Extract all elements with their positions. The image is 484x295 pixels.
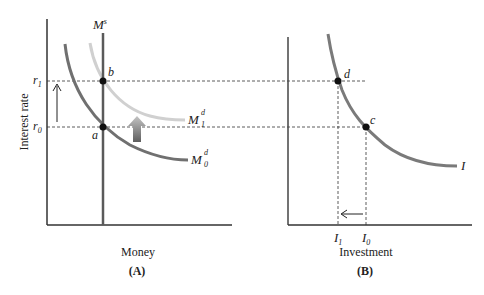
point-a-label: a: [92, 128, 98, 142]
point-c-dot: [363, 124, 370, 131]
svg-text:1: 1: [201, 120, 205, 129]
point-a-dot: [100, 124, 107, 131]
point-b-label: b: [108, 65, 114, 79]
panel-a: Ms b a r1 r0 M d 1 M d 0 Interest rate M…: [17, 17, 370, 278]
x-axis-label-investment: Investment: [339, 245, 393, 259]
demand-shift-arrow-icon: [128, 116, 146, 142]
point-c-label: c: [370, 113, 376, 127]
money-market-investment-diagram: Ms b a r1 r0 M d 1 M d 0 Interest rate M…: [0, 0, 484, 295]
panel-a-label: (A): [129, 264, 146, 278]
svg-text:M: M: [187, 112, 200, 127]
r0-label: r0: [33, 119, 42, 135]
demand1-label: M d 1: [187, 108, 206, 129]
point-d-dot: [335, 78, 342, 85]
svg-text:M: M: [190, 152, 203, 167]
x-axis-label-money: Money: [121, 245, 155, 259]
demand0-label: M d 0: [190, 148, 209, 169]
svg-text:0: 0: [204, 160, 208, 169]
svg-text:d: d: [204, 148, 209, 157]
money-demand-0-curve: [65, 44, 188, 160]
y-axis-label: Interest rate: [17, 94, 31, 151]
r1-label: r1: [33, 73, 42, 89]
point-d-label: d: [344, 67, 351, 81]
panel-b: d c I I1 I0 Investment (B): [288, 34, 472, 278]
investment-curve: [328, 34, 457, 166]
investment-curve-label: I: [460, 158, 466, 173]
panel-b-label: (B): [357, 264, 373, 278]
supply-label: Ms: [92, 17, 107, 32]
point-b-dot: [100, 78, 107, 85]
svg-text:d: d: [201, 108, 206, 117]
